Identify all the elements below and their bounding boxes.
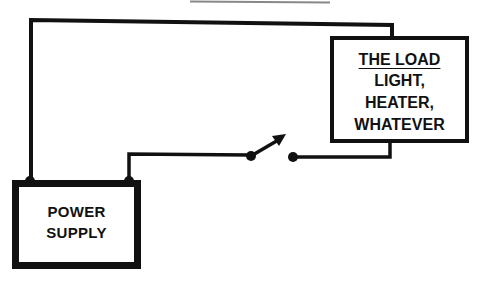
wire-supply-to-switch	[129, 154, 250, 180]
load-line-1: LIGHT,	[334, 70, 465, 92]
load-line-3: WHATEVER	[334, 114, 465, 136]
power-supply-box: POWER SUPPLY	[12, 180, 141, 269]
power-supply-line-2: SUPPLY	[19, 222, 134, 243]
load-line-2: HEATER,	[334, 92, 465, 114]
top-rule	[190, 2, 330, 3]
load-title: THE LOAD	[334, 50, 465, 70]
switch-arm	[251, 139, 280, 156]
wire-switch-to-load	[292, 142, 390, 157]
load-box: THE LOAD LIGHT, HEATER, WHATEVER	[330, 36, 469, 143]
power-supply-line-1: POWER	[19, 201, 134, 222]
switch-contact-dot	[288, 152, 298, 162]
